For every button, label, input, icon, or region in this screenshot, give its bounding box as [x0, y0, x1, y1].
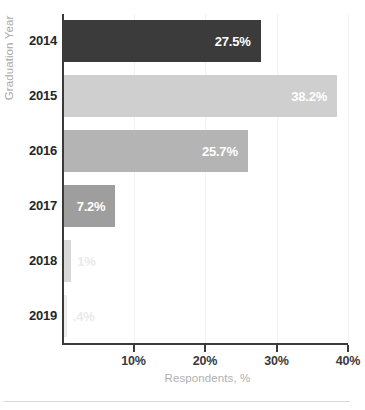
y-axis-label-2016: 2016 — [0, 143, 57, 158]
y-axis-title: Graduation Year — [0, 0, 18, 148]
bar-value-label-2015: 38.2% — [291, 89, 327, 104]
x-axis-tick-label: 10% — [104, 354, 164, 368]
footer-divider — [4, 401, 350, 402]
x-axis-tick-label: 30% — [247, 354, 307, 368]
bar-row: 38.2% — [62, 75, 353, 117]
bar-value-label-2017: 7.2% — [77, 198, 106, 213]
y-axis-label-2015: 2015 — [0, 88, 57, 103]
bar-value-label-2019: .4% — [73, 308, 95, 323]
x-axis-tick-label: 40% — [318, 354, 365, 368]
bar-value-label-2016: 25.7% — [202, 144, 238, 159]
x-axis-tick — [276, 345, 278, 352]
bar-value-label-2014: 27.5% — [215, 34, 251, 49]
x-axis-tick-label: 20% — [175, 354, 235, 368]
bar-2018 — [64, 240, 71, 282]
y-axis-label-2019: 2019 — [0, 308, 57, 323]
bar-row: 1% — [62, 240, 353, 282]
y-axis-label-2017: 2017 — [0, 198, 57, 213]
x-axis-tick — [133, 345, 135, 352]
y-axis-label-2018: 2018 — [0, 253, 57, 268]
y-axis-label-2014: 2014 — [0, 33, 57, 48]
x-axis-tick — [347, 345, 349, 352]
bar-value-label-2018: 1% — [77, 253, 95, 268]
bar-row: .4% — [62, 295, 353, 337]
bar-row: 27.5% — [62, 20, 353, 62]
bar-row: 25.7% — [62, 130, 353, 172]
bar-row: 7.2% — [62, 185, 353, 227]
x-axis-tick — [204, 345, 206, 352]
plot-area: 27.5%38.2%25.7%7.2%1%.4% 10%20%30%40% — [62, 14, 353, 345]
x-axis-title: Respondents, % — [62, 372, 353, 384]
bar-2019 — [64, 295, 67, 337]
